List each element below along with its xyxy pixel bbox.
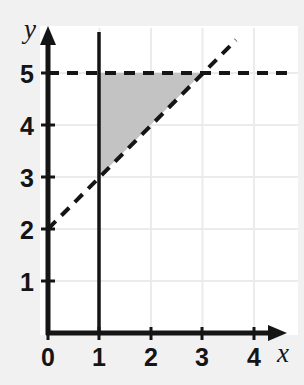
graph-figure: 1 2 3 4 5 0 1 2 3 4 y x xyxy=(0,0,304,385)
y-tick-label-5: 5 xyxy=(8,62,34,87)
y-axis-label: y xyxy=(24,16,36,43)
x-tick-label-0: 0 xyxy=(35,345,61,370)
y-tick-label-2: 2 xyxy=(8,218,34,243)
x-tick-label-4: 4 xyxy=(241,345,267,370)
x-axis-label: x xyxy=(277,340,289,367)
y-tick-label-1: 1 xyxy=(8,270,34,295)
x-tick-label-1: 1 xyxy=(86,345,112,370)
x-tick-label-3: 3 xyxy=(189,345,215,370)
x-tick-label-2: 2 xyxy=(138,345,164,370)
coordinate-plot xyxy=(0,0,304,385)
y-tick-label-4: 4 xyxy=(8,114,34,139)
y-tick-label-3: 3 xyxy=(8,166,34,191)
